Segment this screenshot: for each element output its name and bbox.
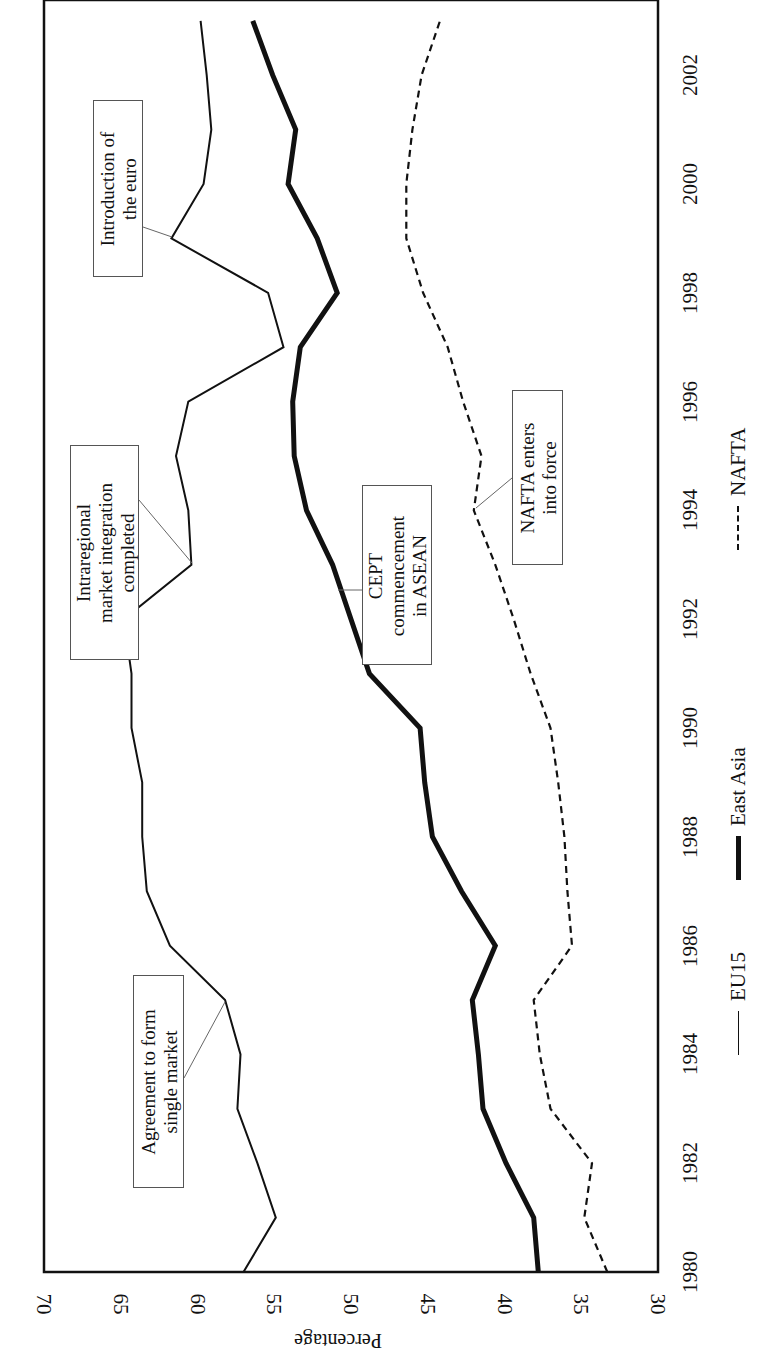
annotation-cept: CEPT commencement in ASEAN [362, 485, 432, 665]
legend-eu15: EU15 [723, 915, 753, 1055]
annotation-single-market: Agreement to form single market [133, 975, 184, 1188]
year-tick-label: 1984 [678, 1024, 702, 1084]
annotation-nafta-text: NAFTA enters into force [517, 391, 561, 566]
legend-east-asia-swatch [736, 836, 741, 880]
legend-nafta-label: NAFTA [726, 428, 751, 496]
annotation-euro: Introduction of the euro [93, 100, 143, 277]
legend-nafta-swatch [737, 506, 739, 550]
percentage-tick-label: 55 [262, 1284, 286, 1324]
percentage-tick-label: 35 [569, 1284, 593, 1324]
year-tick-label: 2000 [678, 154, 702, 214]
year-tick-label: 1992 [678, 589, 702, 649]
percentage-tick-label: 60 [186, 1284, 210, 1324]
year-tick-label: 1994 [678, 480, 702, 540]
percentage-tick-label: 30 [646, 1284, 670, 1324]
leader-nafta [476, 478, 512, 508]
year-tick-label: 2002 [678, 45, 702, 105]
annotation-integration-text: Intraregional market integration complet… [73, 446, 139, 661]
percentage-tick-label: 40 [493, 1284, 517, 1324]
year-tick-label: 1988 [678, 807, 702, 867]
year-tick-label: 1982 [678, 1133, 702, 1193]
leader-euro [143, 227, 172, 237]
year-tick-label: 1998 [678, 263, 702, 323]
annotation-nafta: NAFTA enters into force [512, 390, 563, 565]
percentage-tick-label: 70 [32, 1284, 56, 1324]
leader-single-market [184, 1002, 225, 1078]
percentage-tick-label: 50 [339, 1284, 363, 1324]
legend-east-asia-label: East Asia [726, 747, 751, 826]
year-tick-label: 1996 [678, 372, 702, 432]
year-tick-label: 1980 [678, 1242, 702, 1302]
annotation-cept-text: CEPT commencement in ASEAN [365, 486, 431, 666]
percentage-tick-label: 45 [416, 1284, 440, 1324]
annotation-integration: Intraregional market integration complet… [70, 445, 139, 660]
legend-eu15-label: EU15 [726, 952, 751, 1001]
percentage-tick-label: 65 [109, 1284, 133, 1324]
percentage-axis-title: Percentage [268, 1329, 408, 1353]
year-tick-label: 1986 [678, 916, 702, 976]
legend-nafta: NAFTA [723, 390, 753, 550]
legend-east-asia: East Asia [723, 700, 753, 880]
series-line-nafta [406, 21, 607, 1272]
annotation-single-market-text: Agreement to form single market [138, 976, 182, 1189]
legend-eu15-swatch [738, 1011, 739, 1055]
annotation-leaders [139, 227, 512, 1078]
leader-integration [139, 500, 192, 563]
annotation-euro-text: Introduction of the euro [97, 101, 141, 278]
year-tick-label: 1990 [678, 698, 702, 758]
